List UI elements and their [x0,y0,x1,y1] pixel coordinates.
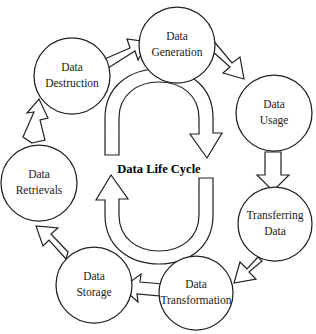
node-label-data-retrievals-line1: Data [28,168,50,180]
node-label-data-retrievals-line2: Retrievals [16,184,63,196]
node-label-data-transformation-line1: Data [185,278,207,290]
node-label-data-generation-line1: Data [166,30,188,42]
node-label-data-transformation-line2: Transformation [160,294,231,306]
node-label-data-usage-line2: Usage [260,114,289,127]
node-label-data-usage-line1: Data [263,98,285,110]
arrow-storage-to-retrievals [36,226,68,259]
arrow-generation-to-usage [211,39,244,79]
inner-arrow-top [105,69,222,158]
arrow-transferring-to-transformation [234,257,262,283]
arrow-usage-to-transferring [257,152,289,191]
diagram-canvas: Data Generation Data Usage Transferring … [0,0,316,334]
data-life-cycle-diagram: Data Generation Data Usage Transferring … [0,0,316,334]
node-label-data-storage-line1: Data [83,270,105,282]
center-label: Data Life Cycle [117,162,201,176]
node-label-data-generation-line2: Generation [151,46,202,58]
inner-arrow-bottom [96,175,213,264]
node-label-data-destruction-line2: Destruction [45,77,99,89]
node-label-data-storage-line2: Storage [76,286,111,299]
node-label-transferring-data-line2: Data [264,225,286,237]
node-label-data-destruction-line1: Data [61,61,83,73]
arrow-retrievals-to-destruction [23,99,48,143]
node-label-transferring-data-line1: Transferring [246,209,303,222]
